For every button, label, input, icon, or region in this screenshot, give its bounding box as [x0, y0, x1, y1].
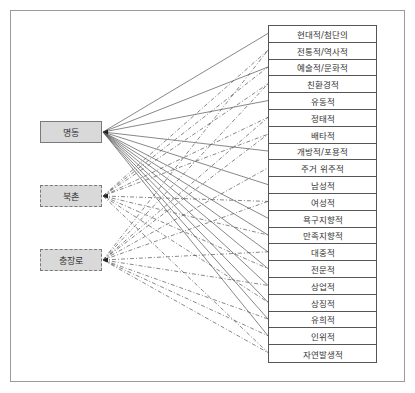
attribute-item: 인위적 — [269, 328, 376, 345]
attribute-item: 정태적 — [269, 110, 376, 127]
connection-line — [103, 50, 268, 196]
attribute-item: 친환경적 — [269, 76, 376, 93]
attribute-item: 현대적/첨단의 — [269, 26, 376, 43]
connection-line — [103, 260, 268, 336]
connection-line — [103, 196, 268, 235]
attribute-item: 상업적 — [269, 278, 376, 295]
connection-line — [103, 252, 268, 260]
connection-line — [103, 132, 268, 218]
attribute-item: 전통적/역사적 — [269, 43, 376, 60]
attribute-list: 현대적/첨단의전통적/역사적예술적/문화적친환경적유동적정태적배타적개방적/포용… — [268, 25, 377, 363]
attribute-item: 여성적 — [269, 194, 376, 211]
connection-line — [103, 168, 268, 260]
connection-line — [103, 117, 268, 196]
connection-line — [103, 260, 268, 285]
attribute-item: 남성적 — [269, 177, 376, 194]
connection-line — [103, 260, 268, 353]
connection-line — [103, 132, 268, 269]
connection-line — [103, 196, 268, 302]
connection-line — [103, 134, 268, 196]
connection-line — [103, 260, 268, 319]
attribute-item: 만족지향적 — [269, 228, 376, 245]
attribute-item: 유동적 — [269, 93, 376, 110]
source-label: 북촌 — [63, 190, 79, 203]
connection-line — [103, 67, 268, 132]
source-box-myeongdong: 명동 — [40, 121, 102, 143]
connection-line — [103, 132, 268, 235]
connection-line — [103, 132, 268, 151]
source-box-bukchon: 북촌 — [40, 185, 102, 207]
source-box-chungjangro: 충장로 — [40, 249, 102, 271]
connection-line — [103, 117, 268, 260]
connection-line — [103, 201, 268, 260]
source-label: 명동 — [63, 126, 79, 139]
attribute-item: 대중적 — [269, 244, 376, 261]
connection-line — [103, 132, 268, 302]
connection-line — [103, 132, 268, 285]
attribute-item: 배타적 — [269, 127, 376, 144]
attribute-item: 자연발생적 — [269, 345, 376, 362]
connection-line — [103, 132, 268, 319]
connection-line — [103, 33, 268, 132]
attribute-item: 유희적 — [269, 312, 376, 329]
connection-line — [103, 196, 268, 269]
attribute-item: 욕구지향적 — [269, 211, 376, 228]
attribute-item: 상징적 — [269, 295, 376, 312]
connection-line — [103, 101, 268, 132]
attribute-item: 개방적/포용적 — [269, 144, 376, 161]
attribute-item: 주거 위주적 — [269, 160, 376, 177]
attribute-item: 전문적 — [269, 261, 376, 278]
attribute-item: 예술적/문화적 — [269, 60, 376, 77]
source-label: 충장로 — [59, 254, 83, 267]
